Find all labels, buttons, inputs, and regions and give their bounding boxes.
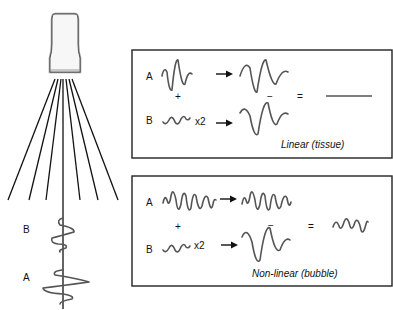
equals-sign: =	[297, 91, 303, 102]
plus-sign: +	[175, 91, 181, 102]
equals-sign: =	[308, 221, 314, 232]
nonlinear-bubble-panel: A + − = B x2 Non-linear (bubble)	[132, 176, 392, 286]
linear-caption: Linear (tissue)	[281, 139, 344, 150]
nonlinear-caption: Non-linear (bubble)	[252, 268, 338, 279]
ultrasound-transducer-icon	[50, 14, 80, 72]
multiplier-label: x2	[194, 240, 205, 251]
pulse-a-helix	[43, 270, 89, 304]
depth-label-b: B	[23, 224, 30, 235]
row-a-label: A	[146, 71, 153, 82]
row-b-label: B	[146, 244, 153, 255]
minus-sign: −	[267, 91, 273, 102]
linear-tissue-panel: A + − = B x2 Linear (tissue)	[132, 50, 392, 158]
depth-label-a: A	[23, 272, 30, 283]
multiplier-label: x2	[195, 116, 206, 127]
plus-sign: +	[175, 221, 181, 232]
row-b-label: B	[146, 115, 153, 126]
row-a-label: A	[146, 197, 153, 208]
pulse-inversion-diagram: B A A + − = B x2 Linear (tissue) A +	[0, 0, 393, 310]
